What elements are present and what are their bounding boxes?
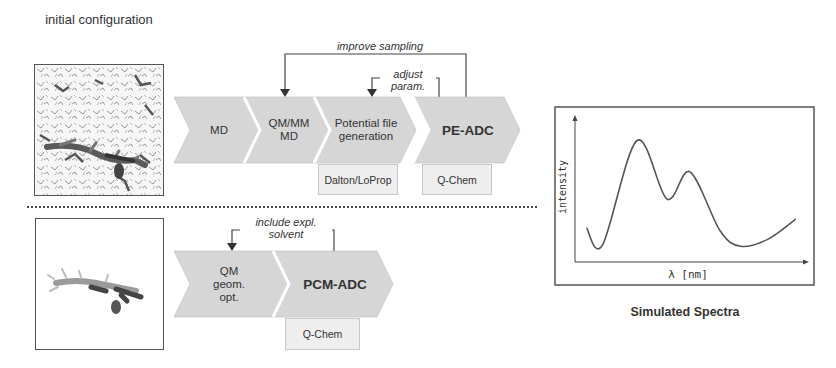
- tool-qchem-top: Q-Chem: [422, 164, 492, 195]
- step-pe-adc-label: PE-ADC: [429, 97, 507, 163]
- y-axis-label: intensity: [557, 160, 568, 214]
- include-solvent-arrowhead-icon: [227, 243, 237, 251]
- spectrum-chart: λ [nm] intensity: [553, 105, 816, 287]
- adjust-param-text: adjust param.: [391, 68, 425, 92]
- include-solvent-label: include expl. solvent: [240, 216, 332, 240]
- improve-sampling-arrowhead-icon: [280, 89, 290, 97]
- step-md-label: MD: [190, 97, 248, 163]
- tool-dalton-loprop: Dalton/LoProp: [318, 164, 398, 195]
- step-qm-geom-opt-label: QM geom. opt.: [196, 251, 262, 317]
- spectrum-frame: [555, 107, 814, 285]
- adjust-param-label: adjust param.: [380, 68, 436, 92]
- tool-qchem-bottom: Q-Chem: [285, 318, 360, 350]
- adjust-param-arrowhead-icon: [367, 89, 377, 97]
- x-axis-label: λ [nm]: [668, 268, 708, 281]
- step-pcm-adc-label: PCM-ADC: [289, 251, 381, 317]
- improve-sampling-label: improve sampling: [318, 40, 442, 52]
- spectra-title: Simulated Spectra: [620, 305, 750, 320]
- step-potential-file-label: Potential file generation: [330, 97, 402, 163]
- step-qmmm-md-label: QM/MM MD: [260, 97, 318, 163]
